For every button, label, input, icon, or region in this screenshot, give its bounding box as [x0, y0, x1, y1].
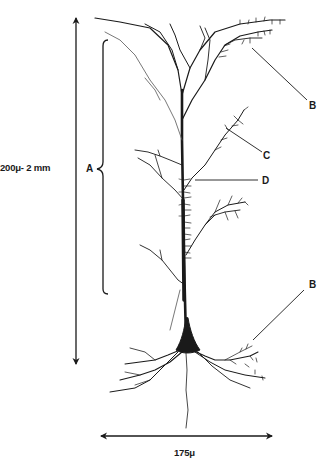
vertical-scale-label: 200μ- 2 mm: [0, 163, 50, 173]
callout-lines: [195, 48, 307, 340]
callout-line-b-bottom: [253, 290, 304, 340]
bracket-a-label: A: [86, 164, 93, 174]
callout-line-b-top: [252, 48, 307, 100]
callout-b-top-label: B: [309, 101, 316, 111]
neuron-drawing: [95, 17, 285, 428]
horizontal-scale-label: 175μ: [174, 448, 195, 458]
neuron-diagram: [0, 0, 326, 464]
bracket-a: [97, 40, 108, 294]
callout-line-c: [226, 128, 262, 152]
callout-d-label: D: [262, 176, 269, 186]
callout-c-label: C: [263, 151, 270, 161]
callout-b-bottom-label: B: [309, 280, 316, 290]
